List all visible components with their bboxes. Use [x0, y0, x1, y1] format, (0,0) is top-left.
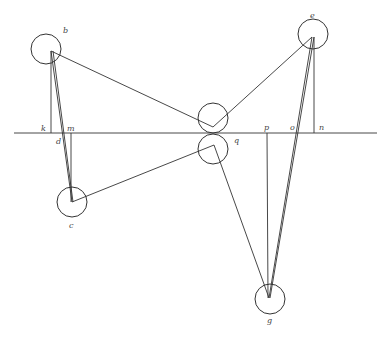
label-q: q [234, 136, 239, 145]
label-p: p [264, 123, 269, 132]
line-e-g-right [270, 37, 314, 298]
label-n: n [319, 123, 324, 132]
line-upper-middle-e [213, 37, 312, 127]
label-k: k [41, 124, 46, 133]
label-g: g [267, 316, 272, 325]
circle-lower-middle [198, 134, 228, 164]
label-o: o [290, 123, 295, 132]
label-e: e [310, 11, 315, 20]
circle-g [255, 284, 285, 314]
line-b-upper-middle [51, 51, 213, 127]
diagram-canvas: b k m d c q p o n e g [0, 0, 385, 338]
line-lower-middle-g [214, 145, 269, 298]
label-d: d [56, 137, 61, 146]
line-p-vertical [267, 133, 268, 298]
line-e-g-left [269, 37, 312, 298]
label-c: c [69, 221, 74, 230]
line-c-lower-middle [72, 145, 214, 202]
circle-b [31, 34, 61, 64]
label-b: b [63, 26, 68, 35]
label-m: m [67, 124, 75, 133]
